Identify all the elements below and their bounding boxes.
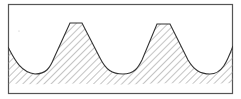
stray-mark [18,30,19,31]
thread-profile-diagram [0,0,241,99]
